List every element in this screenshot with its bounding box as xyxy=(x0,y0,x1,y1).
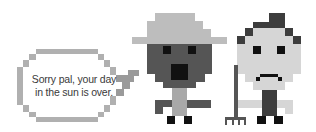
left-foot xyxy=(257,116,266,124)
speech-line-2: in the sun is over. xyxy=(24,86,124,99)
speech-bubble-text: Sorry pal, your day in the sun is over. xyxy=(24,73,124,99)
right-foot xyxy=(274,116,283,124)
left-hand xyxy=(155,107,163,114)
left-eye xyxy=(163,46,171,54)
right-eye xyxy=(188,46,196,54)
speech-line-1: Sorry pal, your day xyxy=(24,73,124,86)
right-hand xyxy=(285,108,293,114)
pixel-art-scene: Sorry pal, your day in the sun is over. xyxy=(0,0,316,132)
open-mouth xyxy=(171,64,188,80)
left-arm xyxy=(155,100,172,107)
right-arm xyxy=(187,100,211,108)
arms-bar xyxy=(237,100,262,108)
neck-body xyxy=(172,88,187,116)
right-foot xyxy=(184,116,192,124)
left-eye xyxy=(253,46,261,54)
left-foot xyxy=(167,116,175,124)
right-eye xyxy=(277,46,285,54)
body xyxy=(262,90,277,116)
arms-bar-right xyxy=(277,100,293,108)
